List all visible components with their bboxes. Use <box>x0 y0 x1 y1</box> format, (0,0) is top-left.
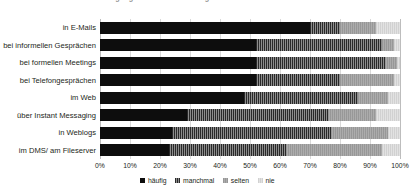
bar-segment-selten <box>286 144 382 156</box>
category-label: über Instant Messaging <box>0 112 96 120</box>
legend-label: nie <box>265 177 274 184</box>
legend-label: selten <box>231 177 249 184</box>
bar-segment-häufig <box>100 109 187 121</box>
chart-title: Grad der Einbringung der technischen Mög… <box>57 0 288 2</box>
bar-row <box>100 57 400 69</box>
legend-swatch-selten <box>223 178 228 183</box>
bar-segment-nie <box>394 39 400 51</box>
bar-segment-selten <box>328 109 376 121</box>
bar-segment-nie <box>394 74 400 86</box>
plot-area <box>100 19 400 159</box>
gridline <box>400 19 401 159</box>
bar-segment-häufig <box>100 127 172 139</box>
bar-segment-selten <box>340 74 394 86</box>
category-label: in E-Mails <box>0 24 96 32</box>
bar-segment-manchmal <box>256 39 382 51</box>
bar-row <box>100 74 400 86</box>
bar-segment-selten <box>385 57 397 69</box>
bar-row <box>100 144 400 156</box>
bar-segment-häufig <box>100 74 256 86</box>
legend-swatch-manchmal <box>175 178 180 183</box>
x-axis-tick-label: 30% <box>183 162 197 169</box>
x-axis-tick-label: 0% <box>95 162 105 169</box>
category-label: im Web <box>0 94 96 102</box>
x-axis-tick-label: 10% <box>123 162 137 169</box>
category-label: bei formellen Meetings <box>0 59 96 67</box>
bar-segment-manchmal <box>169 144 286 156</box>
bar-segment-nie <box>397 57 400 69</box>
category-label: im DMS/ am Fileserver <box>0 147 96 155</box>
bar-segment-nie <box>388 127 400 139</box>
bar-row <box>100 39 400 51</box>
category-label: in Weblogs <box>0 129 96 137</box>
bar-segment-manchmal <box>310 22 340 34</box>
category-label: bei informellen Gesprächen <box>0 42 96 50</box>
category-label: bei Telefongesprächen <box>0 77 96 85</box>
bar-segment-selten <box>331 127 388 139</box>
chart-title-clipped: Grad der Einbringung der technischen Mög… <box>0 0 415 6</box>
stacked-bar-chart: Grad der Einbringung der technischen Mög… <box>0 0 415 196</box>
bar-segment-nie <box>376 109 400 121</box>
legend-item[interactable]: nie <box>258 177 275 184</box>
x-axis-tick-label: 80% <box>333 162 347 169</box>
bar-segment-häufig <box>100 92 244 104</box>
x-axis-tick-label: 40% <box>213 162 227 169</box>
x-axis-tick-label: 20% <box>153 162 167 169</box>
bar-segment-nie <box>376 22 400 34</box>
bar-segment-nie <box>388 92 400 104</box>
bar-segment-häufig <box>100 57 256 69</box>
bar-segment-häufig <box>100 144 169 156</box>
bar-segment-manchmal <box>187 109 328 121</box>
bar-segment-selten <box>340 22 376 34</box>
bar-segment-selten <box>358 92 388 104</box>
bar-segment-selten <box>382 39 394 51</box>
x-axis-tick-label: 50% <box>243 162 257 169</box>
x-axis-tick-label: 60% <box>273 162 287 169</box>
bar-segment-manchmal <box>256 74 340 86</box>
legend-item[interactable]: häufig <box>140 177 166 184</box>
legend-swatch-häufig <box>140 178 145 183</box>
bar-row <box>100 92 400 104</box>
bar-segment-häufig <box>100 22 310 34</box>
chart-legend: häufigmanchmalseltennie <box>0 177 415 184</box>
legend-item[interactable]: manchmal <box>175 177 214 184</box>
bar-segment-manchmal <box>256 57 385 69</box>
legend-swatch-nie <box>258 178 263 183</box>
x-axis: 0%10%20%30%40%50%60%70%80%90%100% <box>100 160 400 172</box>
category-axis-labels: in E-Mailsbei informellen Gesprächenbei … <box>0 19 96 159</box>
x-axis-tick-label: 70% <box>303 162 317 169</box>
bar-row <box>100 109 400 121</box>
bar-row <box>100 127 400 139</box>
bar-row <box>100 22 400 34</box>
bar-segment-manchmal <box>172 127 331 139</box>
bar-segment-nie <box>382 144 400 156</box>
bar-rows <box>100 19 400 159</box>
legend-label: manchmal <box>183 177 214 184</box>
legend-item[interactable]: selten <box>223 177 249 184</box>
x-axis-tick-label: 100% <box>391 162 408 169</box>
bar-segment-manchmal <box>244 92 358 104</box>
legend-label: häufig <box>148 177 167 184</box>
x-axis-tick-label: 90% <box>363 162 377 169</box>
bar-segment-häufig <box>100 39 256 51</box>
